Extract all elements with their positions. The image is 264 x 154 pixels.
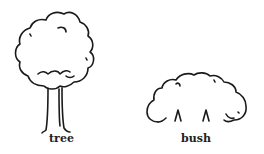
tree-label: tree xyxy=(49,132,74,145)
tree-icon xyxy=(16,12,94,133)
bush-icon xyxy=(147,73,246,122)
bush-label: bush xyxy=(181,132,211,145)
drawing-canvas xyxy=(0,0,264,154)
